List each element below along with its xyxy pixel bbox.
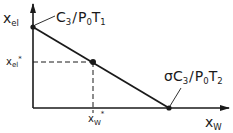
operating-point: [90, 59, 96, 65]
right-point-leader: [170, 88, 181, 106]
right-point-label: σC3/P0T2: [164, 68, 223, 86]
y-marker-label: xel*: [6, 55, 22, 69]
x-marker-label: xW*: [88, 110, 105, 127]
y-axis-label: xel: [3, 10, 19, 28]
x-axis-label: xW: [205, 114, 222, 132]
right-point: [166, 105, 171, 110]
operating-line: [33, 27, 169, 108]
top-point: [30, 24, 35, 29]
phase-diagram: xel xel* xW* xW C3/P0T1 σC3/P0T2: [0, 0, 233, 133]
top-point-leader: [35, 16, 55, 25]
top-point-label: C3/P0T1: [56, 9, 106, 27]
